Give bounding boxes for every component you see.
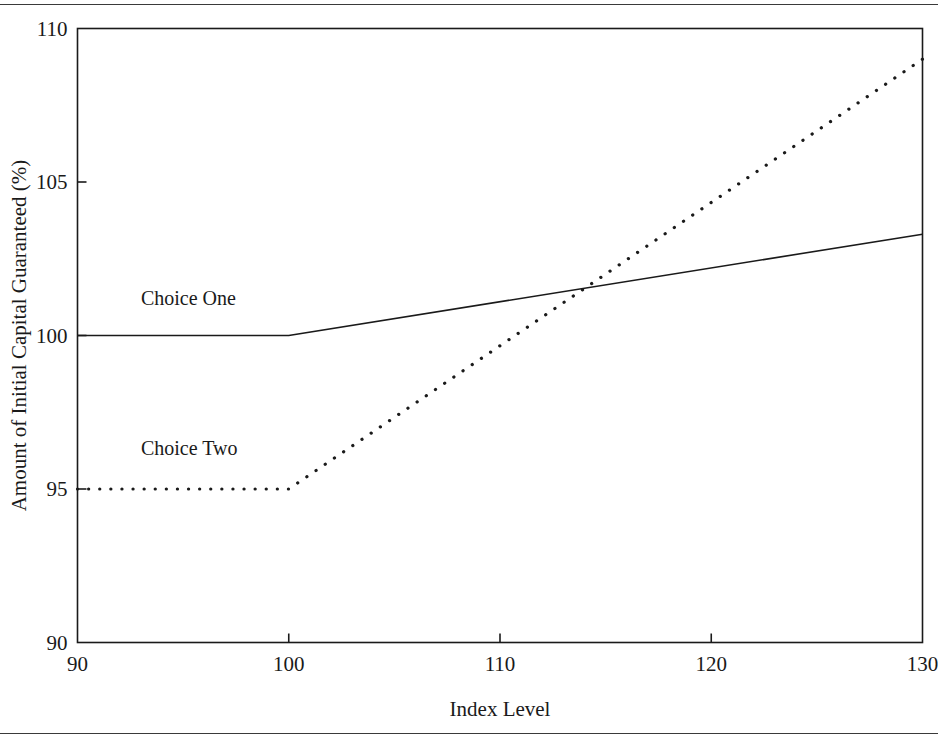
- y-tick-label: 100: [36, 324, 68, 348]
- figure-container: 90100110120130 9095100105110 Choice OneC…: [0, 0, 938, 745]
- line-chart: 90100110120130 9095100105110 Choice OneC…: [0, 0, 938, 745]
- y-axis-title: Amount of Initial Capital Guaranteed (%): [7, 160, 31, 512]
- series-line: [78, 59, 923, 489]
- y-tick-label: 95: [47, 477, 68, 501]
- x-axis-title: Index Level: [450, 697, 551, 721]
- x-axis-tick-labels: 90100110120130: [67, 652, 938, 676]
- x-tick-label: 120: [696, 652, 728, 676]
- data-series: [78, 59, 923, 489]
- x-tick-label: 90: [67, 652, 88, 676]
- x-tick-label: 110: [485, 652, 516, 676]
- series-line: [78, 234, 923, 335]
- axis-ticks: [78, 182, 712, 643]
- series-annotations: Choice OneChoice Two: [141, 287, 238, 459]
- x-tick-label: 130: [907, 652, 938, 676]
- y-tick-label: 90: [47, 631, 68, 655]
- y-tick-label: 110: [37, 17, 68, 41]
- series-label: Choice Two: [141, 437, 238, 459]
- y-tick-label: 105: [36, 170, 68, 194]
- series-label: Choice One: [141, 287, 236, 309]
- y-axis-tick-labels: 9095100105110: [36, 17, 68, 655]
- x-tick-label: 100: [273, 652, 305, 676]
